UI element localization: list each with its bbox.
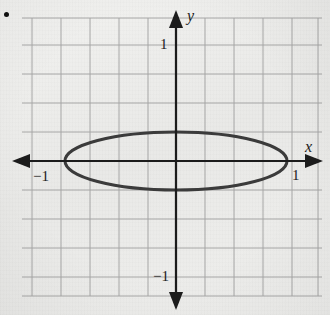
y-axis-up-arrow — [169, 10, 183, 28]
x-axis-label: x — [305, 139, 312, 155]
x-axis-right-arrow — [305, 154, 323, 168]
axes — [18, 16, 317, 302]
x-axis-left-arrow — [12, 154, 30, 168]
y-axis-label: y — [187, 8, 194, 24]
x-tick-label-negative-one: −1 — [33, 169, 49, 184]
graph-figure: x y 1 −1 1 −1 — [0, 0, 330, 315]
y-tick-label-negative-one: −1 — [153, 269, 169, 284]
x-tick-label-positive-one: 1 — [292, 168, 300, 183]
y-tick-label-positive-one: 1 — [160, 37, 168, 52]
y-axis-down-arrow — [169, 292, 183, 310]
